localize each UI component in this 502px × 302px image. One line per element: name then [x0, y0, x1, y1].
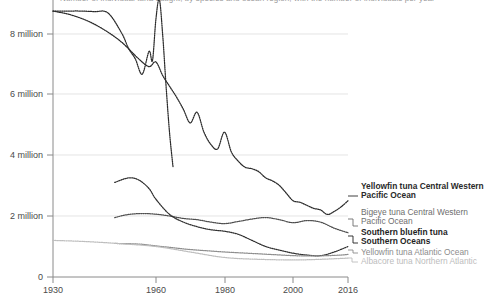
y-label-2m: 2 million	[10, 211, 43, 221]
axis-lines	[47, 0, 348, 283]
x-label-2016: 2016	[338, 285, 358, 295]
leader-bigeye-cwp	[348, 219, 358, 226]
leader-southern-bluefin	[348, 236, 358, 243]
gridlines	[53, 34, 348, 216]
tuna-catch-line-chart: Number of individual tuna caught, by spe…	[0, 0, 502, 302]
legend-label-line2: Southern Oceans	[361, 237, 448, 246]
series-line-skipjack-tuna-western-central-pacific-ocean	[53, 0, 173, 167]
leader-yellowfin-atlantic	[348, 250, 358, 253]
legend-item-southern-bluefin[interactable]: Southern bluefin tuna Southern Oceans	[361, 228, 448, 247]
legend-item-albacore-natlantic[interactable]: Albacore tuna Northern Atlantic	[361, 257, 477, 266]
x-label-2000: 2000	[283, 285, 303, 295]
legend-item-bigeye-cwp[interactable]: Bigeye tuna Central Western Pacific Ocea…	[361, 208, 468, 227]
legend-label-line1: Albacore tuna Northern Atlantic	[361, 257, 477, 266]
series-line-yellowfin-tuna-central-western-pacific-ocean	[53, 11, 348, 214]
x-label-1960: 1960	[146, 285, 166, 295]
legend-label-line2: Pacific Ocean	[361, 191, 484, 200]
y-label-6m: 6 million	[10, 89, 43, 99]
legend-label-line2: Pacific Ocean	[361, 217, 468, 226]
data-series-layer	[53, 0, 348, 260]
x-label-1930: 1930	[43, 285, 63, 295]
x-axis-labels: 1930 1960 1980 2000 2016	[43, 285, 358, 295]
y-label-4m: 4 million	[10, 150, 43, 160]
leader-albacore-natlantic	[348, 258, 358, 262]
y-label-8m: 8 million	[10, 29, 43, 39]
series-line-bigeye-tuna-central-western-pacific-ocean	[115, 214, 348, 233]
legend-item-yellowfin-cwp[interactable]: Yellowfin tuna Central Western Pacific O…	[361, 182, 484, 201]
y-axis-labels: 8 million 6 million 4 million 2 million …	[10, 29, 43, 282]
series-line-southern-bluefin-tuna-southern-oceans	[115, 178, 348, 256]
x-label-1980: 1980	[215, 285, 235, 295]
y-label-0: 0	[38, 272, 43, 282]
legend-leader-lines	[348, 196, 358, 262]
